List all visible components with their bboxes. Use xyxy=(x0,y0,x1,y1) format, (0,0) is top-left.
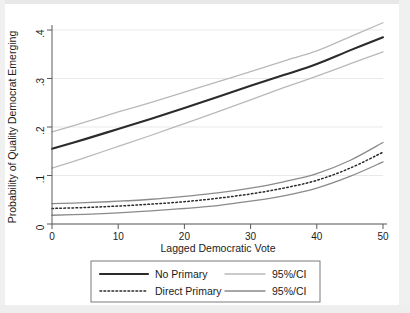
series-line-2 xyxy=(52,52,383,168)
x-tick-label-4: 40 xyxy=(311,231,323,242)
plot-series-group xyxy=(52,23,383,216)
x-tick-label-2: 20 xyxy=(179,231,191,242)
y-axis-ticks: 0.1.2.3.4 xyxy=(35,29,52,230)
x-tick-label-3: 30 xyxy=(245,231,257,242)
series-line-0 xyxy=(52,37,383,149)
y-tick-label-1: .1 xyxy=(35,174,46,183)
x-tick-label-1: 10 xyxy=(113,231,125,242)
gridlines xyxy=(52,30,383,224)
legend-label-0: No Primary xyxy=(155,268,208,280)
line-chart: 0.1.2.3.4 01020304050 Lagged Democratic … xyxy=(0,0,410,313)
chart-figure: 0.1.2.3.4 01020304050 Lagged Democratic … xyxy=(0,0,410,313)
legend-label-1: 95%/CI xyxy=(272,268,306,280)
x-tick-label-0: 0 xyxy=(49,231,55,242)
y-tick-label-2: .2 xyxy=(35,126,46,135)
legend-label-2: Direct Primary xyxy=(155,285,222,297)
x-axis-ticks: 01020304050 xyxy=(49,224,389,242)
series-line-1 xyxy=(52,23,383,132)
legend-label-3: 95%/CI xyxy=(272,285,306,297)
y-tick-label-4: .4 xyxy=(35,29,46,38)
series-line-3 xyxy=(52,152,383,208)
chart-legend: No Primary95%/CIDirect Primary95%/CI xyxy=(91,261,320,302)
y-tick-label-0: 0 xyxy=(35,224,46,230)
y-axis-title: Probability of Quality Democrat Emerging xyxy=(6,31,18,224)
y-tick-label-3: .3 xyxy=(35,77,46,86)
x-tick-label-5: 50 xyxy=(377,231,389,242)
x-axis-title: Lagged Democratic Vote xyxy=(161,242,276,254)
